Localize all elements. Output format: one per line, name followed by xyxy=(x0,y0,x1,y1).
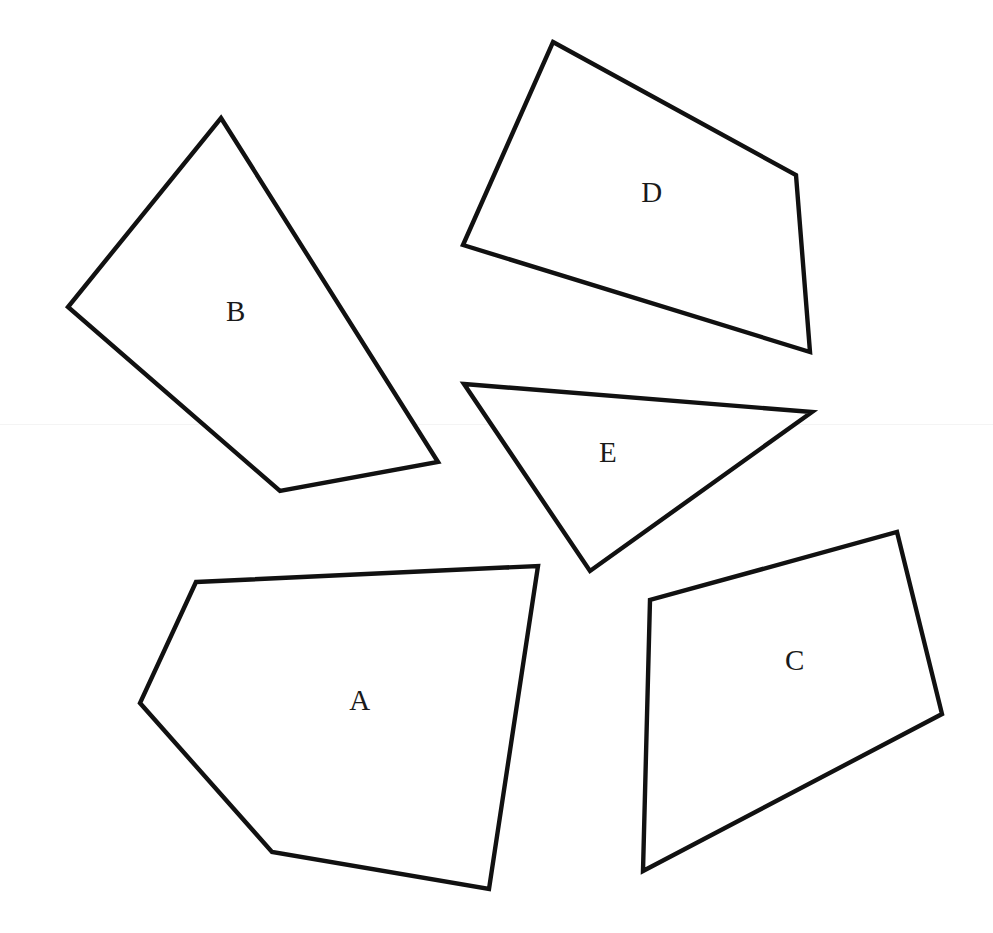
shape-e-polygon[interactable] xyxy=(464,384,812,571)
shape-c-polygon[interactable] xyxy=(643,532,942,871)
shape-b-label: B xyxy=(226,295,246,327)
shape-d-label: D xyxy=(641,176,662,208)
shape-b-polygon[interactable] xyxy=(68,118,438,491)
shape-c-label: C xyxy=(785,644,805,676)
shape-d-polygon[interactable] xyxy=(463,42,810,352)
shape-a-label: A xyxy=(349,684,370,716)
shapes-diagram: A B C D E xyxy=(0,0,993,933)
shape-e-label: E xyxy=(599,436,617,468)
figure-canvas: A B C D E xyxy=(0,0,993,933)
shape-a-polygon[interactable] xyxy=(140,566,538,889)
